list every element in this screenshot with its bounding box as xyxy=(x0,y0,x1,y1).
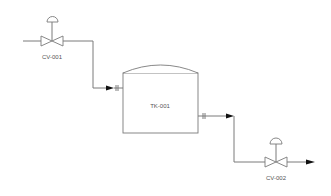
valve-right-triangle-icon xyxy=(276,157,287,167)
valve-cv-002[interactable]: CV-002 xyxy=(265,138,287,181)
flow-arrow-icon xyxy=(106,86,114,91)
valve-left-triangle-icon xyxy=(265,157,276,167)
valve-right-triangle-icon xyxy=(52,36,63,46)
actuator-dome-icon xyxy=(270,138,282,144)
valve-cv-001[interactable]: CV-001 xyxy=(41,17,63,61)
flow-arrow-icon xyxy=(306,160,315,165)
tank-label: TK-001 xyxy=(150,103,170,109)
valve-left-triangle-icon xyxy=(41,36,52,46)
pipe-to-cv-002 xyxy=(234,116,265,162)
tank-dome-icon xyxy=(123,65,198,73)
pid-diagram: CV-001 TK-001 CV-002 xyxy=(0,0,331,196)
actuator-dome-icon xyxy=(47,17,58,23)
valve-label: CV-001 xyxy=(42,54,63,60)
flow-arrow-icon xyxy=(226,114,234,119)
pipe-cv001-tk001 xyxy=(63,41,106,88)
tank-tk-001[interactable]: TK-001 xyxy=(123,65,198,133)
valve-label: CV-002 xyxy=(266,175,287,181)
